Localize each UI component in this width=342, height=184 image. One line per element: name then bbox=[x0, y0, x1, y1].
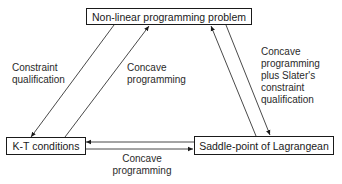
arrow-saddle-to-nlp bbox=[211, 26, 256, 136]
node-nlp-label: Non-linear programming problem bbox=[92, 11, 246, 23]
node-kt-label: K-T conditions bbox=[13, 140, 80, 152]
node-nlp-problem: Non-linear programming problem bbox=[86, 8, 252, 25]
edge-label-concave-programming-bottom: Concave programming bbox=[111, 153, 173, 177]
edge-label-concave-slater: Concave programming plus Slater's constr… bbox=[261, 46, 320, 106]
node-saddle-point: Saddle-point of Lagrangean bbox=[194, 136, 334, 155]
edge-label-concave-programming-left: Concave programming bbox=[127, 62, 186, 86]
node-kt-conditions: K-T conditions bbox=[6, 137, 86, 155]
node-saddle-label: Saddle-point of Lagrangean bbox=[199, 140, 329, 152]
edge-label-constraint-qualification: Constraint qualification bbox=[12, 62, 65, 86]
